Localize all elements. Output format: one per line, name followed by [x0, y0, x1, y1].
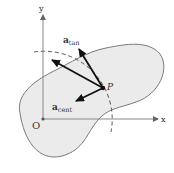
y-axis-label: y — [38, 4, 44, 13]
a-cent-subscript: cent — [58, 106, 73, 114]
origin-label: O — [32, 120, 40, 131]
a-tan-label: atan — [63, 35, 80, 47]
origin-point — [41, 117, 44, 120]
acceleration-diagram: y x O P atan acent — [0, 0, 174, 173]
point-p-label: P — [106, 82, 114, 92]
region-shape — [19, 44, 163, 157]
a-tan-subscript: tan — [69, 39, 80, 47]
point-p — [101, 86, 105, 90]
x-axis-label: x — [161, 115, 166, 124]
